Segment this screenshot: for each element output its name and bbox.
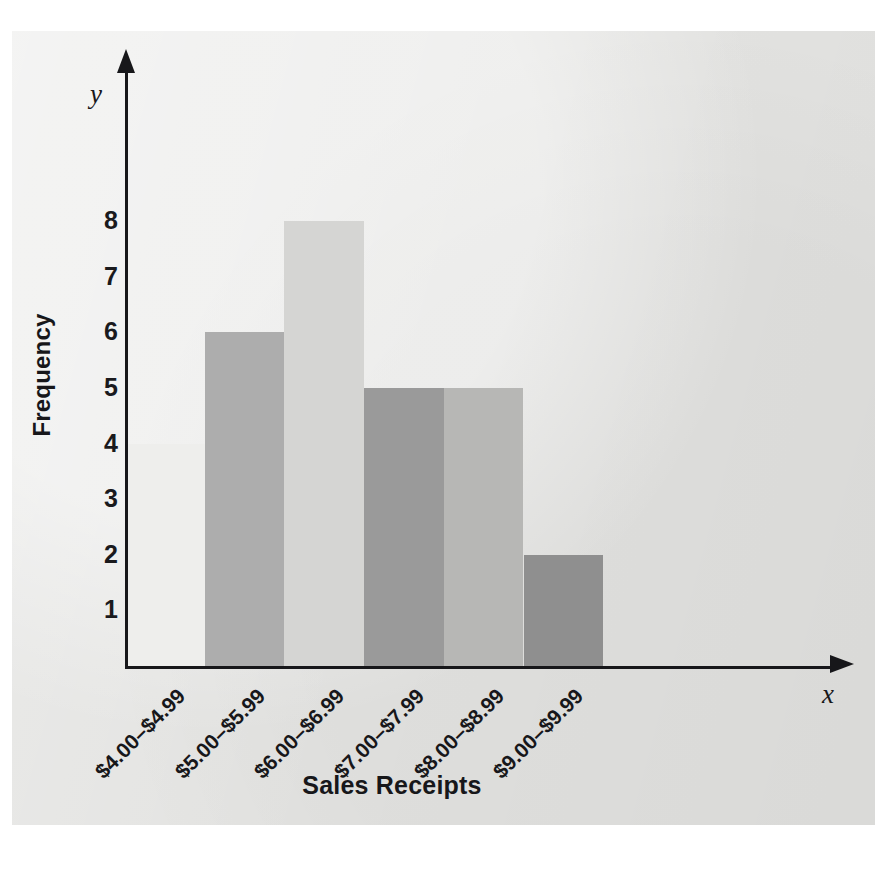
y-axis-tick-label: 1	[84, 597, 118, 622]
y-axis-tick-label: 5	[84, 375, 118, 400]
bar	[205, 332, 285, 666]
bar	[364, 388, 444, 666]
y-axis-arrow-icon	[117, 49, 135, 73]
y-axis-tick-label: 6	[84, 319, 118, 344]
x-axis-arrow-icon	[830, 655, 854, 673]
y-axis-line	[125, 67, 128, 669]
bar	[524, 555, 604, 666]
y-axis-tick-label: 8	[84, 208, 118, 233]
bar	[284, 221, 364, 666]
bar	[444, 388, 524, 666]
y-axis-tick-label: 4	[84, 431, 118, 456]
x-axis-title: Sales Receipts	[212, 771, 572, 800]
plot-area: y x 12345678 $4.00–$4.99$5.00–$5.99$6.00…	[12, 31, 875, 825]
bar	[125, 444, 205, 666]
figure-panel: y x 12345678 $4.00–$4.99$5.00–$5.99$6.00…	[12, 31, 875, 825]
y-axis-tick-label: 7	[84, 264, 118, 289]
y-axis-title: Frequency	[28, 285, 56, 465]
y-axis-tick-label: 3	[84, 486, 118, 511]
y-axis-tick-label: 2	[84, 542, 118, 567]
x-axis-line	[125, 666, 835, 669]
